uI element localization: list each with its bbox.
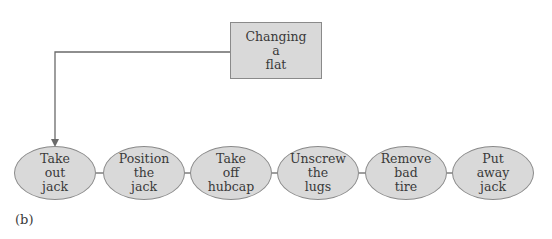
step-text: the [308, 166, 328, 180]
step-text: jack [131, 180, 157, 194]
step-node-take-off-hubcap: Take off hubcap [190, 146, 272, 200]
step-node-put-away-jack: Put away jack [452, 146, 534, 200]
step-text: Take [40, 152, 70, 166]
root-node-changing-a-flat: Changing a flat [230, 22, 322, 79]
step-text: Take [216, 152, 246, 166]
root-line-3: flat [266, 58, 287, 72]
step-node-unscrew-the-lugs: Unscrew the lugs [277, 146, 359, 200]
step-text: jack [42, 180, 68, 194]
step-text: away [477, 166, 510, 180]
step-node-position-the-jack: Position the jack [103, 146, 185, 200]
step-text: out [45, 166, 66, 180]
step-text: jack [480, 180, 506, 194]
figure-caption: (b) [15, 212, 33, 227]
step-text: Position [119, 152, 169, 166]
step-text: the [134, 166, 154, 180]
step-text: hubcap [208, 180, 255, 194]
step-text: Remove [381, 152, 432, 166]
root-to-first-arrow [55, 52, 230, 140]
step-text: lugs [305, 180, 331, 194]
step-text: tire [395, 180, 417, 194]
root-line-1: Changing [245, 30, 306, 44]
root-line-2: a [272, 44, 279, 58]
step-node-take-out-jack: Take out jack [14, 146, 96, 200]
step-node-remove-bad-tire: Remove bad tire [365, 146, 447, 200]
step-text: off [223, 166, 239, 180]
step-text: Unscrew [290, 152, 346, 166]
step-text: Put [482, 152, 503, 166]
step-text: bad [394, 166, 417, 180]
